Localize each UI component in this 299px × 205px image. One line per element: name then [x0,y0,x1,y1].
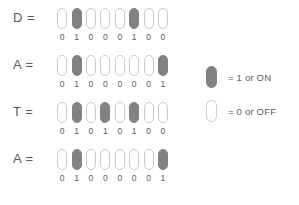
bit-digit: 1 [132,32,137,42]
bit-pill-on-icon [72,149,82,170]
legend-entry-on: = 1 or ON [206,60,298,94]
bit-group-d: 0 1 0 0 0 [55,8,170,42]
byte-rows-group: D = 0 1 0 0 [13,8,188,196]
legend: = 1 or ON = 0 or OFF [206,60,298,128]
bit-pill-off-icon [115,8,125,29]
bit-digit: 0 [60,79,65,89]
binary-byte-diagram: D = 0 1 0 0 [0,0,299,205]
bit-digit: 0 [117,79,122,89]
bit-pill-off-icon [100,55,110,76]
bit-cell: 1 [156,55,170,89]
legend-swatch-wrap [206,100,228,122]
bit-digit: 0 [117,173,122,183]
bit-digit: 0 [89,79,94,89]
legend-pill-on-icon [206,66,217,88]
bit-cell: 1 [69,149,83,183]
bit-pill-on-icon [100,102,110,123]
bit-cell: 0 [55,102,69,136]
bit-cell: 1 [69,102,83,136]
bit-cell: 0 [156,8,170,42]
legend-label-off: = 0 or OFF [228,106,276,117]
bit-pill-off-icon [144,8,154,29]
bit-cell: 0 [55,8,69,42]
bit-digit: 0 [117,32,122,42]
table-row: T = 0 1 0 1 [13,102,188,149]
legend-label-on: = 1 or ON [228,72,271,83]
row-label-a-first: A = [13,57,47,72]
bit-cell: 0 [141,8,155,42]
row-label-t: T = [13,104,47,119]
table-row: A = 0 1 0 0 [13,149,188,196]
bit-digit: 0 [161,126,166,136]
bit-digit: 0 [146,173,151,183]
bit-cell: 0 [156,102,170,136]
row-label-a-second: A = [13,151,47,166]
bit-digit: 1 [103,126,108,136]
bit-digit: 0 [146,79,151,89]
bit-cell: 0 [113,149,127,183]
bit-cell: 0 [127,149,141,183]
bit-cell: 1 [69,8,83,42]
bit-pill-off-icon [158,102,168,123]
bit-cell: 0 [98,55,112,89]
bit-pill-off-icon [158,8,168,29]
bit-pill-off-icon [57,149,67,170]
bit-pill-on-icon [72,8,82,29]
legend-swatch-wrap [206,66,228,88]
bit-digit: 1 [74,126,79,136]
bit-digit: 1 [161,173,166,183]
bit-digit: 0 [89,126,94,136]
bit-cell: 0 [84,102,98,136]
bit-digit: 0 [89,173,94,183]
bit-digit: 1 [74,32,79,42]
bit-pill-off-icon [57,102,67,123]
legend-entry-off: = 0 or OFF [206,94,298,128]
bit-pill-off-icon [57,55,67,76]
bit-digit: 0 [161,32,166,42]
bit-digit: 1 [74,173,79,183]
bit-cell: 0 [113,55,127,89]
bit-cell: 0 [127,55,141,89]
bit-pill-on-icon [158,149,168,170]
bit-digit: 0 [89,32,94,42]
bit-pill-off-icon [86,149,96,170]
bit-pill-off-icon [100,149,110,170]
bit-digit: 0 [103,32,108,42]
bit-cell: 1 [127,102,141,136]
bit-pill-off-icon [86,55,96,76]
bit-cell: 0 [98,149,112,183]
bit-digit: 0 [132,173,137,183]
table-row: D = 0 1 0 0 [13,8,188,55]
bit-group-a-second: 0 1 0 0 0 [55,149,170,183]
bit-cell: 0 [84,8,98,42]
bit-digit: 0 [132,79,137,89]
bit-digit: 0 [60,173,65,183]
bit-pill-off-icon [129,55,139,76]
bit-digit: 0 [117,126,122,136]
bit-cell: 1 [127,8,141,42]
bit-cell: 0 [141,55,155,89]
bit-cell: 0 [141,102,155,136]
legend-pill-off-icon [206,100,217,122]
bit-pill-off-icon [86,102,96,123]
bit-group-a-first: 0 1 0 0 0 [55,55,170,89]
bit-cell: 0 [141,149,155,183]
bit-digit: 1 [132,126,137,136]
bit-pill-off-icon [100,8,110,29]
row-label-d: D = [13,10,47,25]
bit-digit: 0 [60,126,65,136]
bit-cell: 0 [98,8,112,42]
bit-cell: 0 [113,8,127,42]
bit-pill-off-icon [144,55,154,76]
bit-pill-off-icon [115,149,125,170]
bit-pill-on-icon [129,8,139,29]
bit-cell: 0 [113,102,127,136]
bit-cell: 0 [84,149,98,183]
bit-pill-on-icon [72,55,82,76]
bit-digit: 0 [60,32,65,42]
table-row: A = 0 1 0 0 [13,55,188,102]
bit-digit: 1 [161,79,166,89]
bit-pill-off-icon [86,8,96,29]
bit-group-t: 0 1 0 1 0 [55,102,170,136]
bit-pill-on-icon [129,102,139,123]
